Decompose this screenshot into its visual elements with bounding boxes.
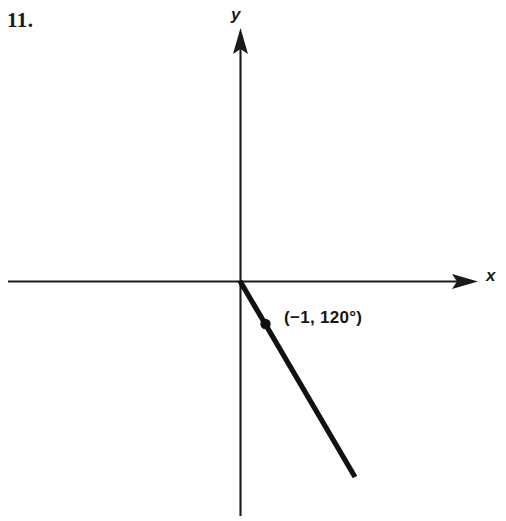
polar-point-figure — [0, 0, 506, 521]
point-coordinate-label: (−1, 120°) — [284, 308, 362, 328]
plotted-point-marker — [260, 319, 270, 329]
x-axis-label: x — [486, 266, 495, 286]
y-axis-label: y — [231, 5, 240, 25]
figure-page: 11. y x (−1, 120°) — [0, 0, 506, 521]
